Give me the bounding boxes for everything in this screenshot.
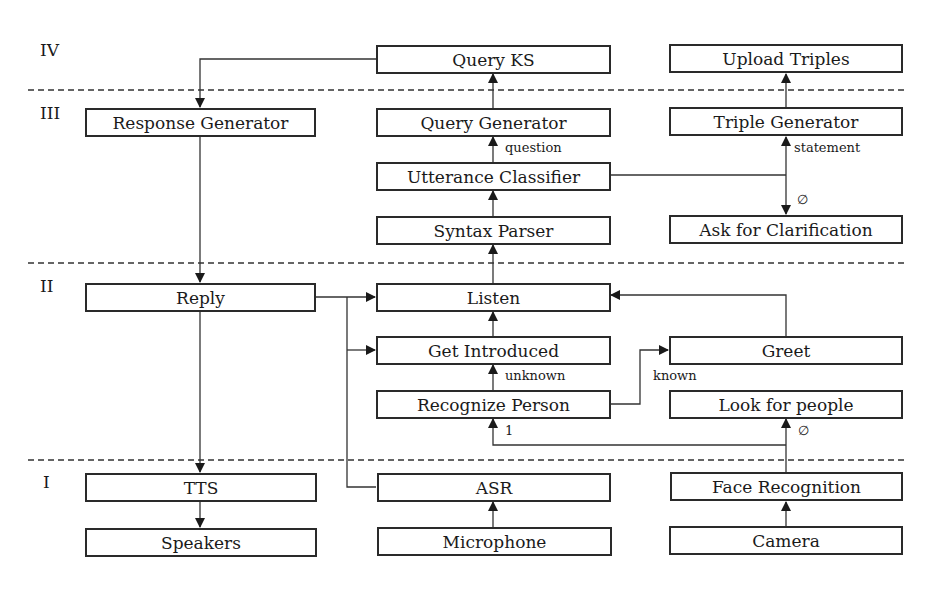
level-label-iv: IV [40, 40, 59, 60]
box-query-ks: Query KS [376, 45, 611, 74]
box-speakers: Speakers [85, 528, 317, 557]
box-get-introduced: Get Introduced [376, 336, 611, 365]
box-reply: Reply [85, 283, 316, 312]
box-asr: ASR [377, 473, 611, 502]
edge-label-question: question [505, 140, 562, 155]
box-greet: Greet [669, 336, 903, 365]
box-camera: Camera [669, 526, 903, 555]
box-response-generator: Response Generator [85, 108, 316, 137]
box-face-recognition: Face Recognition [670, 472, 903, 501]
edge-label-empty-look: ∅ [798, 423, 809, 438]
edge-label-unknown: unknown [505, 368, 565, 383]
box-syntax-parser: Syntax Parser [376, 216, 611, 245]
box-query-generator: Query Generator [376, 108, 611, 137]
box-microphone: Microphone [377, 527, 612, 556]
level-label-i: I [43, 472, 50, 492]
box-look-for-people: Look for people [669, 390, 903, 419]
box-upload-triples: Upload Triples [669, 44, 903, 73]
edge-label-statement: statement [794, 140, 860, 155]
level-label-iii: III [40, 103, 60, 123]
box-recognize-person: Recognize Person [376, 390, 611, 419]
edge-label-known: known [653, 368, 697, 383]
edge-label-empty-clarification: ∅ [797, 192, 808, 207]
box-utterance-classifier: Utterance Classifier [376, 162, 611, 191]
box-listen: Listen [376, 283, 611, 312]
edge-label-one: 1 [505, 423, 513, 438]
box-ask-for-clarification: Ask for Clarification [669, 215, 903, 244]
box-triple-generator: Triple Generator [669, 107, 903, 136]
box-tts: TTS [85, 473, 317, 502]
level-label-ii: II [40, 276, 53, 296]
